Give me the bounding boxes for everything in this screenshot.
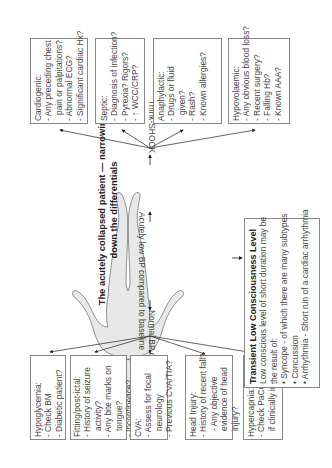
diagram-title: The acutely collapsed patient — narrowin…	[96, 90, 119, 330]
box-title: Hypovolaemic:	[231, 26, 241, 121]
transient-item: • Syncope - of which there are many subt…	[279, 209, 289, 384]
box-item: - Recent surgery?	[252, 26, 262, 121]
box-item: - Falling Hb?	[262, 26, 272, 121]
box-item: pain or palpitations?	[54, 31, 64, 121]
box-item: - Known allergies?	[198, 52, 208, 121]
box-title: Anaphylactic:	[156, 52, 166, 121]
box-item: - Diagnosis of infection?	[109, 32, 119, 121]
box-item: - History of recent fall?	[198, 353, 208, 437]
box-item: - Significant cardiac Hx?	[75, 31, 85, 121]
box-septic-text: Septic: - Diagnosis of infection? - Pyre…	[99, 32, 141, 121]
box-item: - Previous CVA/TIA?	[164, 360, 174, 437]
box-item: - Drugs or fluid	[166, 52, 176, 121]
box-cva-text: CVA: - Assess for focal neurology - Prev…	[133, 360, 175, 437]
box-item: - Abnormal ECG?	[64, 31, 74, 121]
box-item: tongue?	[114, 365, 124, 437]
box-item: - Known AAA?	[273, 26, 283, 121]
box-hypoglycemia-text: Hypoglycemia: - Check BM - Diabetic pati…	[33, 369, 64, 437]
box-title: Hypoglycemia:	[33, 369, 43, 437]
box-title: Head Injury:	[188, 353, 198, 437]
box-item: - History of seizure	[82, 365, 92, 437]
box-cardiogenic-text: Cardiogenic: - Any preceding chest pain …	[33, 31, 85, 121]
title-line-2: down the differentials	[108, 90, 120, 330]
box-transient-text: Transient Low Consciousness Level Low co…	[248, 209, 310, 384]
box-item: - Assess for focal	[143, 360, 153, 437]
box-item: - Pyrexia? Rigors?	[120, 32, 130, 121]
box-item: activity?	[93, 365, 103, 437]
box-title: Septic:	[99, 32, 109, 121]
box-item: - Any objective	[209, 353, 219, 437]
box-item: evidence of head	[219, 353, 229, 437]
arrow-to-hypercapnia	[150, 336, 254, 353]
box-title: Cardiogenic:	[33, 31, 43, 121]
arrow-to-hypovolaemic	[150, 130, 255, 148]
transient-title: Transient Low Consciousness Level	[248, 209, 258, 384]
box-item: - Any obvious blood loss?	[241, 26, 251, 121]
box-head-injury-text: Head Injury: - History of recent fall? -…	[188, 353, 240, 437]
box-hypovolaemic-text: Hypovolaemic: - Any obvious blood loss? …	[231, 26, 283, 121]
diagram-render: The acutely collapsed patient — narrowin…	[0, 0, 332, 468]
box-anaphylactic-text: Anaphylactic: - Drugs or fluid given? - …	[156, 52, 208, 121]
box-item: - ↑ WCC/CRP?	[130, 32, 140, 121]
box-title: Fitting/post-ictal:	[72, 365, 82, 437]
transient-intro-1: Low conscious level of short duration ma…	[258, 209, 268, 384]
title-line-1: The acutely collapsed patient — narrowin…	[96, 90, 108, 330]
box-item: - Diabetic patient?	[54, 369, 64, 437]
box-title: CVA:	[133, 360, 143, 437]
box-item: - Check BM	[43, 369, 53, 437]
arrow-to-hypoglycemia	[50, 336, 150, 352]
box-item: given?	[177, 52, 187, 121]
box-item: - Any preceding chest	[43, 31, 53, 121]
arrow-to-head-injury	[150, 336, 205, 354]
box-fitting-text: Fitting/post-ictal: - History of seizure…	[72, 365, 134, 437]
box-item: injury?	[230, 353, 240, 437]
low-bp-text: Acutely low BP compared to baseline	[137, 212, 147, 350]
box-item: - Any bite marks on	[103, 365, 113, 437]
transient-item: • Arrhythmia - Short run of a cardiac ar…	[300, 209, 310, 384]
box-item: neurology	[154, 360, 164, 437]
box-item: - Rash?	[187, 52, 197, 121]
transient-intro-2: the result of:	[269, 209, 279, 384]
transient-item: • Concussion	[290, 209, 300, 384]
low-bp-label: Acutely low BP compared to baseline	[137, 212, 147, 350]
